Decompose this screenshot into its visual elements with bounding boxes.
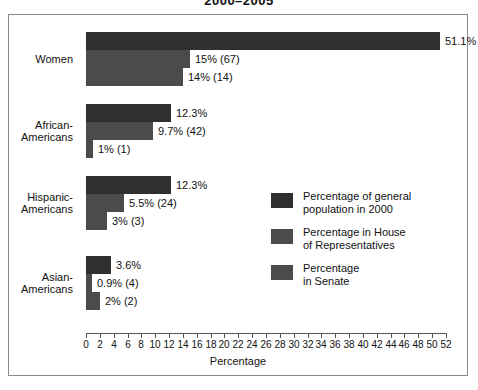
x-axis-tick [321, 333, 322, 338]
x-axis-tick [266, 333, 267, 338]
legend-swatch-senate [271, 265, 293, 280]
x-axis-tick [197, 333, 198, 338]
x-axis-tick [155, 333, 156, 338]
bar-value-label: 12.3% [176, 176, 207, 194]
x-axis-tick [418, 333, 419, 338]
bar [86, 50, 190, 68]
bar-value-label: 3.6% [116, 256, 141, 274]
category-label-line: Hispanic- [21, 191, 73, 203]
legend-item: Percentage in Houseof Representatives [271, 227, 461, 263]
category-label: African-Americans [21, 119, 73, 143]
x-axis-tick [432, 333, 433, 338]
x-axis-tick [183, 333, 184, 338]
x-axis-tick [280, 333, 281, 338]
bar-value-label: 0.9% (4) [97, 274, 139, 292]
x-axis-tick [114, 333, 115, 338]
x-axis-tick [169, 333, 170, 338]
x-axis-tick [86, 333, 87, 338]
category-label: Asian-Americans [21, 271, 73, 295]
bar [86, 176, 171, 194]
x-axis-tick [141, 333, 142, 338]
bar [86, 122, 153, 140]
legend-label-line: of Representatives [303, 239, 406, 252]
bar-value-label: 3% (3) [112, 212, 144, 230]
legend-label-line: in Senate [303, 275, 359, 288]
bar [86, 140, 93, 158]
bar-value-label: 9.7% (42) [158, 122, 206, 140]
bar-value-label: 12.3% [176, 104, 207, 122]
category-label-line: Americans [21, 283, 73, 295]
chart-legend: Percentage of generalpopulation in 2000P… [271, 191, 461, 299]
bar [86, 194, 124, 212]
legend-label-line: Percentage of general [303, 190, 411, 203]
legend-item: Percentagein Senate [271, 263, 461, 299]
legend-label: Percentagein Senate [303, 262, 359, 288]
bar [86, 104, 171, 122]
category-label-line: African- [21, 119, 73, 131]
x-axis-tick [294, 333, 295, 338]
x-axis-tick [100, 333, 101, 338]
x-axis-tick [211, 333, 212, 338]
bar [86, 274, 92, 292]
x-axis-tick [349, 333, 350, 338]
bar [86, 292, 100, 310]
bar-value-label: 2% (2) [105, 292, 137, 310]
bar-value-label: 5.5% (24) [129, 194, 177, 212]
x-axis-tick [308, 333, 309, 338]
bar-value-label: 14% (14) [188, 68, 233, 86]
bar [86, 212, 107, 230]
legend-swatch-general-population [271, 193, 293, 208]
category-label-line: Women [35, 53, 73, 65]
x-axis-tick [377, 333, 378, 338]
chart-title: 2000–2005 [0, 0, 478, 5]
legend-label-line: Percentage in House [303, 226, 406, 239]
x-axis-tick [391, 333, 392, 338]
legend-label-line: population in 2000 [303, 203, 411, 216]
chart-frame: Women51.1%15% (67)14% (14)African-Americ… [8, 14, 468, 376]
category-label-line: Americans [21, 203, 73, 215]
x-axis-tick [252, 333, 253, 338]
x-axis-tick [128, 333, 129, 338]
x-axis-tick [238, 333, 239, 338]
x-axis-tick [363, 333, 364, 338]
category-label-line: Americans [21, 131, 73, 143]
bar [86, 32, 440, 50]
x-axis-tick [224, 333, 225, 338]
x-axis-tick [404, 333, 405, 338]
category-label-line: Asian- [21, 271, 73, 283]
category-label: Hispanic-Americans [21, 191, 73, 215]
bar [86, 256, 111, 274]
x-axis-title: Percentage [9, 355, 467, 367]
legend-label: Percentage in Houseof Representatives [303, 226, 406, 252]
legend-item: Percentage of generalpopulation in 2000 [271, 191, 461, 227]
legend-label: Percentage of generalpopulation in 2000 [303, 190, 411, 216]
x-axis-tick-label: 52 [436, 339, 456, 350]
bar-value-label: 1% (1) [98, 140, 130, 158]
legend-swatch-house [271, 229, 293, 244]
category-label: Women [35, 53, 73, 65]
x-axis-tick [446, 333, 447, 338]
bar-value-label: 15% (67) [195, 50, 240, 68]
x-axis-tick [335, 333, 336, 338]
bar [86, 68, 183, 86]
legend-label-line: Percentage [303, 262, 359, 275]
bar-value-label: 51.1% [445, 32, 476, 50]
